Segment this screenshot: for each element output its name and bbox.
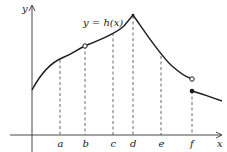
curve-segment-4 (192, 91, 222, 101)
curve-segment-3 (133, 15, 190, 78)
x-axis-label: x (217, 138, 223, 149)
tick-label-a: a (58, 138, 64, 149)
curve-segment-1 (32, 47, 83, 90)
graph-diagram: y x y = h(x) a b c d e f (0, 0, 227, 152)
filled-circle-f (190, 89, 195, 94)
dashed-guides (60, 16, 192, 135)
open-circle-f (190, 77, 194, 81)
curve-h (32, 15, 222, 101)
tick-label-b: b (83, 138, 89, 149)
tick-label-f: f (189, 138, 196, 149)
tick-label-d: d (130, 138, 136, 149)
tick-label-c: c (111, 138, 117, 149)
function-label: y = h(x) (82, 17, 123, 28)
tick-labels: a b c d e f (58, 138, 197, 149)
open-circle-b (83, 44, 87, 48)
y-axis-label: y (21, 3, 28, 14)
peak-point-d (132, 14, 135, 17)
tick-label-e: e (159, 138, 165, 149)
